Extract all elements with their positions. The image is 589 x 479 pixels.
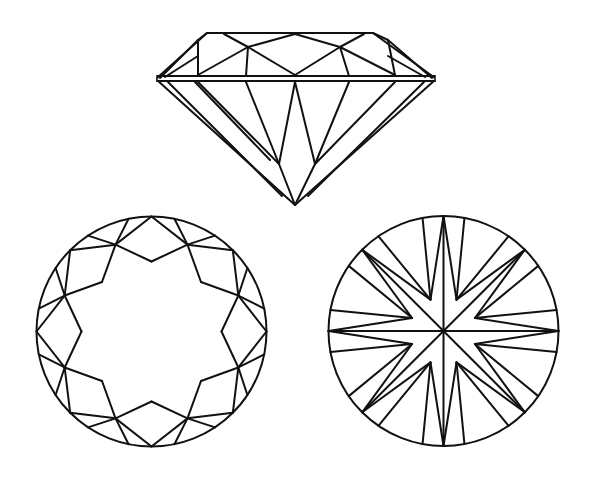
diamond-pavilion-bottom-view — [329, 216, 559, 446]
diamond-side-view — [157, 33, 435, 205]
diamond-diagram — [0, 0, 589, 479]
diamond-crown-top-view — [37, 217, 267, 447]
